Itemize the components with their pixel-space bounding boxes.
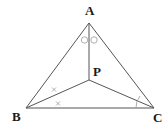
segment-ab (26, 23, 89, 108)
circle-mark-icon (81, 37, 87, 43)
vertex-label-c: C (153, 110, 162, 125)
triangle-sides (26, 23, 154, 108)
cevians (26, 23, 154, 108)
vertex-label-b: B (12, 109, 21, 124)
segment-cp (89, 80, 154, 108)
triangle-diagram: A B C P (0, 0, 168, 127)
angle-marks-b (52, 88, 60, 106)
diagram-canvas: A B C P (0, 0, 168, 127)
circle-mark-icon (91, 37, 97, 43)
vertex-label-a: A (85, 3, 95, 18)
cross-mark-icon (56, 102, 60, 106)
point-label-p: P (93, 64, 101, 79)
cross-mark-icon (52, 88, 56, 92)
